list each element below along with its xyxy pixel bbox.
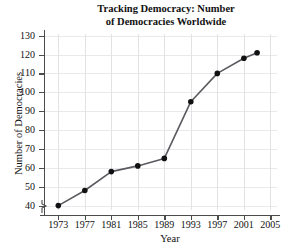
data-point [188, 99, 194, 105]
chart-figure: Tracking Democracy: Number of Democracie… [0, 0, 288, 251]
series-line [58, 53, 257, 206]
data-point [215, 71, 221, 77]
data-point [109, 169, 115, 175]
data-point [162, 156, 168, 162]
series-markers [56, 50, 260, 209]
data-point [254, 50, 260, 56]
data-point [56, 203, 62, 209]
data-point [82, 188, 88, 194]
data-point [135, 163, 141, 169]
data-point [241, 56, 247, 62]
data-series [0, 0, 288, 251]
